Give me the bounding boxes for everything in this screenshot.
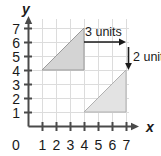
y-tick-label-2: 2: [12, 91, 20, 107]
x-tick-label-5: 5: [95, 137, 103, 153]
y-tick-label-7: 7: [12, 21, 20, 37]
x-tick-label-7: 7: [123, 137, 131, 153]
coordinate-plane-figure: 1 2 3 4 5 6 7 0 1 2 3 4 5 6 7 y x 3 unit…: [0, 0, 161, 156]
x-tick-label-3: 3: [67, 137, 75, 153]
x-axis-label: x: [145, 119, 155, 135]
x-tick-label-6: 6: [109, 137, 117, 153]
original-triangle: [42, 28, 84, 70]
origin-label: 0: [12, 137, 20, 153]
y-tick-label-6: 6: [12, 35, 20, 51]
y-tick-label-3: 3: [12, 77, 20, 93]
x-tick-labels: 1 2 3 4 5 6 7: [39, 137, 131, 153]
coordinate-plane-svg: 1 2 3 4 5 6 7 0 1 2 3 4 5 6 7 y x 3 unit…: [0, 0, 161, 156]
horizontal-translation-label: 3 units: [85, 25, 122, 39]
x-axis-arrowhead-icon: [131, 123, 139, 130]
x-tick-label-4: 4: [81, 137, 89, 153]
horizontal-translation-arrow-icon: [84, 39, 126, 46]
translated-triangle: [84, 70, 126, 112]
x-tick-label-1: 1: [39, 137, 47, 153]
y-axis-arrowhead-icon: [25, 16, 32, 24]
y-tick-label-4: 4: [12, 63, 20, 79]
y-tick-label-5: 5: [12, 49, 20, 65]
y-axis-label: y: [21, 1, 31, 17]
y-tick-labels: 1 2 3 4 5 6 7: [12, 21, 20, 121]
x-tick-label-2: 2: [53, 137, 61, 153]
vertical-translation-label: 2 units: [133, 50, 161, 64]
y-tick-label-1: 1: [12, 105, 20, 121]
